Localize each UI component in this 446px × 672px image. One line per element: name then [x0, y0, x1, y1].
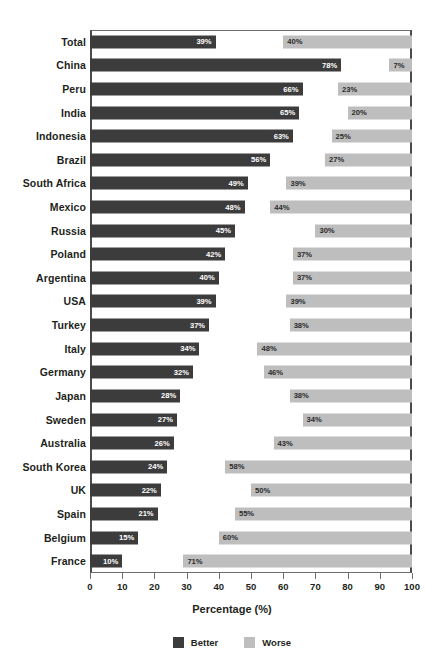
category-label-usa: USA [0, 295, 86, 307]
bar-area: 26%43% [90, 431, 412, 455]
category-label-uk: UK [0, 484, 86, 496]
bar-area: 15%60% [90, 526, 412, 550]
bar-worse: 48% [257, 342, 412, 355]
bar-value-worse: 50% [255, 486, 270, 495]
bar-value-worse: 39% [290, 179, 305, 188]
bar-worse: 71% [183, 555, 412, 568]
x-tick-label-40: 40 [214, 581, 225, 592]
x-axis-title-text: Percentage (%) [192, 603, 271, 615]
category-label-turkey: Turkey [0, 319, 86, 331]
bar-better: 27% [90, 413, 177, 426]
x-tick-label-20: 20 [149, 581, 160, 592]
bar-area: 10%71% [90, 549, 412, 573]
bar-better: 78% [90, 59, 341, 72]
chart-row: Italy34%48% [0, 337, 446, 361]
legend-swatch-better [173, 637, 184, 648]
bar-area: 37%38% [90, 313, 412, 337]
bar-worse: 43% [274, 437, 412, 450]
bar-value-worse: 46% [268, 368, 283, 377]
legend-label-worse: Worse [262, 637, 291, 648]
bar-better: 24% [90, 460, 167, 473]
x-tick-label-60: 60 [278, 581, 289, 592]
bar-value-worse: 58% [229, 462, 244, 471]
legend-item-worse: Worse [244, 637, 291, 648]
category-label-brazil: Brazil [0, 154, 86, 166]
chart-rows: Total39%40%China78%7%Peru66%23%India65%2… [0, 30, 446, 573]
category-label-indonesia: Indonesia [0, 130, 86, 142]
x-tick-label-100: 100 [404, 581, 420, 592]
bar-better: 49% [90, 177, 248, 190]
bar-value-worse: 39% [290, 297, 305, 306]
category-label-japan: Japan [0, 390, 86, 402]
x-tick [90, 573, 91, 579]
bar-area: 66%23% [90, 77, 412, 101]
bar-worse: 46% [264, 366, 412, 379]
bar-worse: 27% [325, 153, 412, 166]
bar-better: 66% [90, 83, 303, 96]
bar-value-worse: 60% [223, 533, 238, 542]
chart-row: Mexico48%44% [0, 195, 446, 219]
bar-worse: 38% [290, 389, 412, 402]
legend-label-better: Better [191, 637, 218, 648]
category-label-india: India [0, 107, 86, 119]
bar-better: 37% [90, 319, 209, 332]
chart-row: Sweden27%34% [0, 408, 446, 432]
x-tick [251, 573, 252, 579]
bar-value-better: 27% [158, 415, 173, 424]
bar-area: 40%37% [90, 266, 412, 290]
chart-row: Japan28%38% [0, 384, 446, 408]
bar-area: 21%55% [90, 502, 412, 526]
category-label-spain: Spain [0, 508, 86, 520]
bar-value-better: 39% [196, 297, 211, 306]
bar-value-better: 63% [274, 132, 289, 141]
category-label-total: Total [0, 36, 86, 48]
bar-area: 27%34% [90, 408, 412, 432]
bar-chart: Total39%40%China78%7%Peru66%23%India65%2… [0, 0, 446, 672]
bar-worse: 58% [225, 460, 412, 473]
x-tick [154, 573, 155, 579]
chart-row: Spain21%55% [0, 502, 446, 526]
bar-worse: 50% [251, 484, 412, 497]
bar-worse: 37% [293, 271, 412, 284]
bar-value-better: 48% [225, 203, 240, 212]
bar-worse: 30% [315, 224, 412, 237]
bar-area: 32%46% [90, 361, 412, 385]
bar-value-worse: 20% [352, 108, 367, 117]
bar-value-worse: 37% [297, 273, 312, 282]
bar-worse: 40% [283, 35, 412, 48]
chart-row: UK22%50% [0, 479, 446, 503]
legend-item-better: Better [173, 637, 218, 648]
bar-area: 34%48% [90, 337, 412, 361]
bar-value-better: 39% [196, 37, 211, 46]
bar-worse: 38% [290, 319, 412, 332]
chart-row: Germany32%46% [0, 361, 446, 385]
bar-area: 78%7% [90, 54, 412, 78]
chart-row: Belgium15%60% [0, 526, 446, 550]
bar-worse: 7% [389, 59, 412, 72]
bar-value-worse: 25% [336, 132, 351, 141]
bar-value-better: 49% [229, 179, 244, 188]
bar-value-better: 34% [180, 344, 195, 353]
bar-value-worse: 43% [278, 439, 293, 448]
x-tick [187, 573, 188, 579]
category-label-russia: Russia [0, 225, 86, 237]
bar-area: 22%50% [90, 479, 412, 503]
category-label-sweden: Sweden [0, 414, 86, 426]
bar-worse: 37% [293, 248, 412, 261]
bar-area: 42%37% [90, 242, 412, 266]
bar-area: 45%30% [90, 219, 412, 243]
category-label-poland: Poland [0, 248, 86, 260]
bar-better: 26% [90, 437, 174, 450]
bar-area: 39%40% [90, 30, 412, 54]
category-label-germany: Germany [0, 366, 86, 378]
bar-area: 49%39% [90, 172, 412, 196]
x-tick [283, 573, 284, 579]
bar-value-better: 56% [251, 155, 266, 164]
x-tick-label-30: 30 [181, 581, 192, 592]
bar-area: 48%44% [90, 195, 412, 219]
category-label-france: France [0, 555, 86, 567]
bar-value-better: 65% [280, 108, 295, 117]
bar-value-worse: 40% [287, 37, 302, 46]
x-tick-label-90: 90 [375, 581, 386, 592]
bar-worse: 39% [286, 295, 412, 308]
